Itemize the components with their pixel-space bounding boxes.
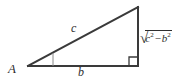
base-label-b: b xyxy=(78,66,84,78)
vertical-side-label-radical: √c2−b2 xyxy=(140,30,172,46)
right-angle-mark-icon xyxy=(129,57,138,66)
figure-root: A c b √c2−b2 xyxy=(0,0,194,84)
term2-exponent: 2 xyxy=(167,31,171,39)
hypotenuse-label-c: c xyxy=(71,22,76,34)
minus-operator: − xyxy=(154,32,162,44)
radical-expression: √c2−b2 xyxy=(140,30,172,46)
hypotenuse-line xyxy=(28,7,138,66)
vertex-label-a: A xyxy=(8,62,16,75)
radicand: c2−b2 xyxy=(145,30,172,45)
